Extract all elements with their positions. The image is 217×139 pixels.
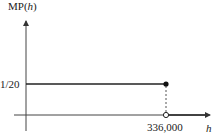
- y-tick-label: 1/20: [0, 78, 20, 90]
- y-axis-label: MP(h): [8, 0, 37, 12]
- y-axis-label-suffix: ): [33, 0, 37, 12]
- x-tick-label: 336,000: [147, 121, 183, 133]
- closed-endpoint-marker: [163, 81, 168, 86]
- chart-canvas: [0, 0, 217, 139]
- y-axis-label-prefix: MP(: [8, 0, 28, 12]
- x-axis-label: h: [206, 122, 212, 134]
- open-endpoint-marker: [163, 112, 168, 117]
